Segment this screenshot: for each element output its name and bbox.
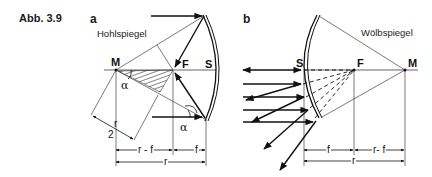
angle-alpha-mirror: α [180, 121, 187, 134]
dim-r-minus-f-a: r - f [137, 145, 154, 155]
dim-r-a: r [163, 157, 168, 167]
reflected-ray-top [175, 16, 204, 67]
dim-r-half-den: 2 [107, 130, 115, 140]
panel-a-label: a [90, 12, 97, 26]
panel-b-label: b [243, 12, 250, 26]
point-S-a: S [205, 58, 212, 70]
point-M-b: M [408, 57, 417, 69]
dim-r-half-num: r [113, 119, 118, 129]
panel-a-title: Hohlspiegel [97, 28, 147, 39]
point-F-a: F [182, 58, 189, 70]
dim-f-a: f [194, 145, 199, 155]
dim-r-b: r [351, 156, 356, 166]
angle-alpha-center: α [121, 79, 128, 92]
dim-f-b: f [326, 145, 331, 155]
point-S-b: S [296, 57, 303, 69]
point-F-b: F [357, 57, 364, 69]
dim-r-minus-f-b: r- f [372, 145, 386, 155]
panel-b-title: Wölbspiegel [361, 27, 413, 38]
reflected-ray-bottom [175, 73, 205, 118]
point-M-a: M [111, 56, 120, 68]
